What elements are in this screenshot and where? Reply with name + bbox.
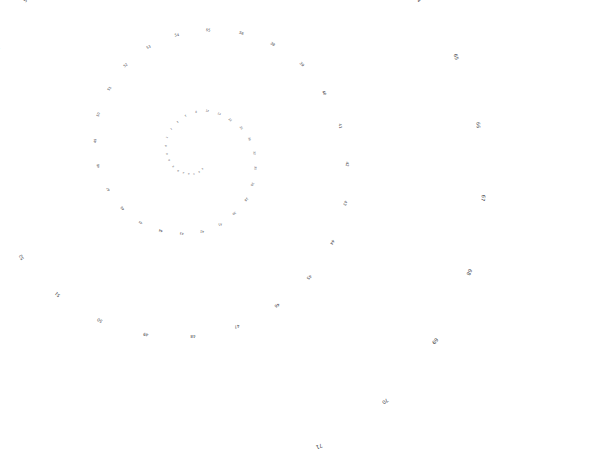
spiral-label: 8 [195, 112, 197, 115]
spiral-label: 47 [107, 186, 112, 191]
spiral-label: 68 [465, 268, 472, 276]
spiral-label: 48 [98, 164, 102, 169]
spiral-label: 35 [253, 166, 257, 170]
spiral-label: 52 [19, 254, 26, 261]
spiral-label: 46 [273, 302, 279, 308]
spiral-label: 42 [345, 161, 349, 166]
spiral-label: 0 [188, 172, 190, 175]
spiral-label: 12 [205, 111, 209, 114]
spiral-label: 51 [54, 291, 61, 298]
spiral-label: 47 [234, 323, 240, 328]
spiral-label: 55 [206, 29, 211, 33]
spiral-label: 51 [107, 86, 112, 92]
spiral-label: 65 [452, 54, 459, 62]
spiral-label: 25 [238, 126, 242, 130]
spiral-label: 44 [158, 228, 163, 233]
spiral-label: 75 [0, 431, 1, 439]
spiral-label: 48 [190, 334, 195, 338]
spiral-label: 44 [329, 239, 335, 245]
spiral-label: 64 [414, 0, 422, 3]
spiral-label: 67 [480, 195, 486, 202]
spiral-label: 38 [243, 197, 248, 202]
spiral-label: 0 [201, 167, 203, 170]
spiral-label: 50 [96, 317, 103, 323]
spiral-label: 0 [165, 145, 168, 147]
spiral-label: 66 [475, 122, 481, 129]
spiral-label: 0 [183, 171, 186, 174]
spiral-label: 0 [194, 171, 196, 173]
spiral-label: 32 [252, 151, 255, 155]
spiral-label: 70 [381, 397, 389, 405]
spiral-label: 43 [342, 200, 347, 206]
spiral-label: 69 [431, 337, 439, 345]
spiral-label: 2 [171, 128, 174, 131]
spiral-label: 54 [175, 34, 180, 38]
spiral-chart: 0000000000123581213222530323536383941424… [0, 0, 610, 452]
spiral-label: 71 [315, 443, 323, 450]
spiral-label: 53 [147, 45, 153, 50]
spiral-label: 0 [173, 165, 176, 167]
spiral-label: 39 [298, 62, 304, 68]
spiral-label: 40 [321, 90, 327, 96]
spiral-label: 41 [338, 124, 343, 130]
spiral-label: 57 [23, 0, 30, 4]
spiral-label: 38 [269, 43, 275, 49]
spiral-label: 0 [198, 170, 200, 172]
spiral-label: 36 [250, 182, 254, 187]
spiral-label: 45 [138, 219, 143, 224]
spiral-label: 30 [247, 137, 251, 141]
spiral-label: 0 [169, 159, 172, 161]
spiral-label: 39 [232, 211, 237, 216]
spiral-label: 45 [305, 273, 311, 279]
spiral-label: 0 [166, 153, 169, 155]
spiral-label: 41 [217, 222, 222, 226]
spiral-label: 56 [238, 31, 244, 36]
spiral-label: 3 [177, 121, 180, 124]
spiral-label: 1 [167, 136, 170, 139]
spiral-label: 43 [179, 231, 183, 235]
spiral-label: 42 [200, 229, 204, 232]
spiral-label: 49 [143, 331, 149, 336]
spiral-label: 46 [121, 205, 126, 210]
spiral-label: 0 [177, 169, 180, 172]
spiral-label: 52 [124, 64, 130, 70]
spiral-label: 56 [0, 47, 2, 54]
spiral-label: 50 [97, 112, 102, 117]
spiral-label: 13 [217, 112, 221, 116]
spiral-label: 49 [94, 139, 98, 144]
spiral-label: 5 [185, 115, 187, 118]
spiral-label: 22 [228, 117, 232, 121]
